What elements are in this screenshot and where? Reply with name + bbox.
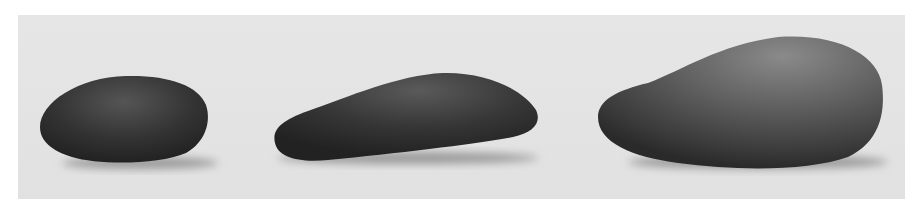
stones-photograph [18, 15, 905, 199]
stones-scene [18, 15, 905, 199]
